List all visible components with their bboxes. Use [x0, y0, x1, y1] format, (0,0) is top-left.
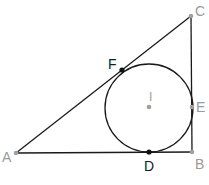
label-a: A [2, 149, 12, 165]
point-d [146, 149, 151, 154]
segment-ab [16, 152, 192, 153]
geometry-diagram: A B C D E F I [0, 0, 209, 185]
label-i: I [149, 90, 152, 104]
label-b: B [195, 156, 204, 172]
point-i [147, 105, 152, 110]
segment-bc [191, 16, 192, 152]
point-a [14, 151, 19, 156]
label-f: F [108, 56, 117, 72]
point-e [190, 105, 195, 110]
point-f [119, 67, 124, 72]
point-b [190, 150, 195, 155]
segment-ca [16, 16, 191, 153]
label-e: E [196, 99, 205, 115]
label-d: D [144, 158, 154, 174]
point-c [189, 14, 194, 19]
label-c: C [195, 3, 205, 19]
